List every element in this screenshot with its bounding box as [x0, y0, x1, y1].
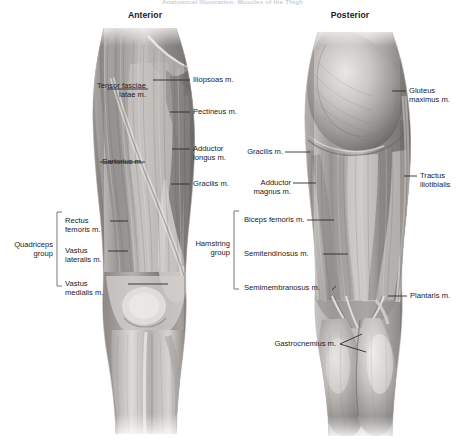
label-vastus-lateralis: Vastus lateralis m.	[65, 246, 127, 265]
group-label-hamstring: Hamstring group	[178, 239, 230, 258]
label-pectineus-line-1: Pectineus m.	[193, 107, 283, 116]
label-adductor-magnus: Adductor magnus m.	[185, 178, 291, 197]
label-plantaris-line-1: Plantaris m.	[410, 291, 465, 300]
label-vastus-medialis-line-2: medialis m.	[65, 288, 127, 297]
label-gracilis-posterior-line-1: Gracilis m.	[185, 147, 283, 156]
label-sartorius-line-1: Sartorius m.	[0, 157, 143, 166]
group-label-quadriceps-line-1: Quadriceps	[0, 240, 53, 249]
label-semitendinosus-line-1: Semitendinosus m.	[244, 249, 344, 258]
label-rectus-femoris-line-2: femoris m.	[65, 225, 127, 234]
label-tractus-iliotibialis-line-2: iliotibialis	[420, 180, 465, 189]
label-sartorius: Sartorius m.	[0, 157, 143, 166]
label-gluteus-maximus-line-1: Gluteus	[409, 86, 465, 95]
label-adductor-magnus-line-2: magnus m.	[185, 187, 291, 196]
label-vastus-medialis: Vastus medialis m.	[65, 279, 127, 298]
header-anterior: Anterior	[95, 10, 195, 20]
label-rectus-femoris: Rectus femoris m.	[65, 216, 127, 235]
label-gluteus-maximus-line-2: maximus m.	[409, 95, 465, 104]
label-gracilis-posterior: Gracilis m.	[185, 147, 283, 156]
posterior-leg-illustration	[300, 24, 415, 440]
label-gastrocnemius: Gastrocnemius m.	[230, 339, 336, 348]
label-tractus-iliotibialis: Tractus iliotibialis	[420, 171, 465, 190]
label-pectineus: Pectineus m.	[193, 107, 283, 116]
label-semimembranosus-line-1: Semimembranosus m.	[244, 283, 354, 292]
label-iliopsoas-line-1: Iliopsoas m.	[193, 75, 283, 84]
label-gluteus-maximus: Gluteus maximus m.	[409, 86, 465, 105]
label-rectus-femoris-line-1: Rectus	[65, 216, 127, 225]
label-iliopsoas: Iliopsoas m.	[193, 75, 283, 84]
group-label-quadriceps: Quadriceps group	[0, 240, 53, 259]
label-tensor-fasciae-latae: Tensor fasciae latae m.	[0, 81, 146, 100]
label-tensor-fasciae-latae-line-1: Tensor fasciae	[0, 81, 146, 90]
bracket-hamstring	[234, 211, 239, 289]
label-tractus-iliotibialis-line-1: Tractus	[420, 171, 465, 180]
label-plantaris: Plantaris m.	[410, 291, 465, 300]
label-biceps-femoris: Biceps femoris m.	[244, 215, 339, 224]
group-label-hamstring-line-1: Hamstring	[178, 239, 230, 248]
label-biceps-femoris-line-1: Biceps femoris m.	[244, 215, 339, 224]
label-adductor-magnus-line-1: Adductor	[185, 178, 291, 187]
group-label-hamstring-line-2: group	[178, 248, 230, 257]
bracket-quadriceps	[57, 212, 62, 286]
label-vastus-lateralis-line-1: Vastus	[65, 246, 127, 255]
header-posterior: Posterior	[300, 10, 400, 20]
label-semitendinosus: Semitendinosus m.	[244, 249, 344, 258]
label-semimembranosus: Semimembranosus m.	[244, 283, 354, 292]
label-vastus-medialis-line-1: Vastus	[65, 279, 127, 288]
label-gastrocnemius-line-1: Gastrocnemius m.	[230, 339, 336, 348]
thigh-muscles-figure: Anatomical Illustration: Muscles of the …	[0, 0, 465, 441]
label-tensor-fasciae-latae-line-2: latae m.	[0, 90, 146, 99]
group-label-quadriceps-line-2: group	[0, 249, 53, 258]
label-vastus-lateralis-line-2: lateralis m.	[65, 255, 127, 264]
